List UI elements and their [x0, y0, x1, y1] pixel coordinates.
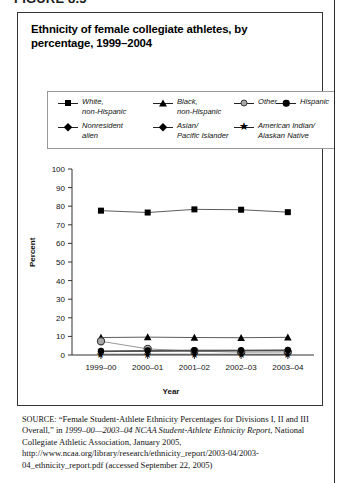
x-tick-label: 2003–04 — [272, 363, 304, 372]
star-marker-icon: ★ — [234, 122, 254, 132]
data-point-marker: ★ — [96, 349, 105, 360]
y-tick-label: 0 — [61, 351, 66, 360]
data-point-marker — [145, 210, 151, 216]
data-point-marker: ★ — [190, 349, 199, 360]
legend-label: American Indian/ Alaskan Native — [258, 121, 315, 140]
y-tick-label: 50 — [56, 258, 65, 267]
square-marker-icon — [58, 98, 78, 108]
y-tick-label: 10 — [56, 332, 65, 341]
source-italic: 1999–00—2003–04 NCAA Student-Athlete Eth… — [65, 425, 271, 435]
x-axis-title: Year — [18, 387, 324, 396]
data-point-marker — [97, 338, 104, 345]
open-circle-marker-icon — [234, 98, 254, 108]
x-tick-label: 2000–01 — [132, 363, 164, 372]
data-point-marker — [238, 207, 244, 213]
page-right-rule — [334, 0, 335, 483]
legend-label: Asian/ Pacific Islander — [177, 121, 229, 140]
legend-label: Other — [258, 97, 277, 107]
legend-label: White, non-Hispanic — [82, 97, 126, 116]
x-tick-label: 2002–03 — [226, 363, 258, 372]
data-point-marker — [191, 206, 197, 212]
figure-title: Ethnicity of female collegiate athletes,… — [31, 22, 311, 50]
legend-item-other[interactable]: Other — [234, 97, 277, 108]
chart-series — [97, 333, 291, 341]
legend-row-1: White, non-Hispanic Black, non-Hispanic … — [48, 97, 334, 123]
y-tick-label: 90 — [56, 184, 65, 193]
data-point-marker: ★ — [237, 349, 246, 360]
data-point-marker — [285, 209, 291, 215]
y-tick-label: 20 — [56, 314, 65, 323]
chart-series — [98, 206, 291, 215]
filled-circle-marker-icon — [276, 98, 296, 108]
legend-item-asian-pacific-islander[interactable]: Asian/ Pacific Islander — [153, 121, 229, 140]
line-chart-svg: 01020304050607080901001999–002000–012001… — [18, 159, 324, 384]
legend-item-white-non-hispanic[interactable]: White, non-Hispanic — [58, 97, 126, 116]
source-note: SOURCE: “Female Student-Athlete Ethnicit… — [22, 414, 322, 471]
triangle-marker-icon — [153, 98, 173, 108]
data-point-marker: ★ — [143, 349, 152, 360]
legend-label: Hispanic — [300, 97, 329, 107]
legend-row-2: Nonresident alien Asian/ Pacific Islande… — [48, 121, 334, 147]
legend-label: Nonresident alien — [82, 121, 123, 140]
y-tick-label: 30 — [56, 295, 65, 304]
legend-item-nonresident-alien[interactable]: Nonresident alien — [58, 121, 123, 140]
figure-panel: Ethnicity of female collegiate athletes,… — [17, 12, 323, 406]
y-tick-label: 40 — [56, 277, 65, 286]
y-tick-label: 60 — [56, 239, 65, 248]
data-point-marker: ★ — [283, 349, 292, 360]
chart-legend: White, non-Hispanic Black, non-Hispanic … — [47, 91, 335, 149]
y-tick-label: 70 — [56, 221, 65, 230]
source-prefix: SOURCE: — [22, 415, 57, 424]
diamond-marker-icon — [58, 122, 78, 132]
x-tick-label: 1999–00 — [85, 363, 117, 372]
legend-label: Black, non-Hispanic — [177, 97, 221, 116]
figure-label: FIGURE 8.5 — [14, 0, 87, 6]
legend-item-black-non-hispanic[interactable]: Black, non-Hispanic — [153, 97, 221, 116]
y-tick-label: 80 — [56, 202, 65, 211]
diamond-marker-icon — [153, 122, 173, 132]
legend-item-hispanic[interactable]: Hispanic — [276, 97, 329, 108]
legend-item-american-indian-alaskan-native[interactable]: ★ American Indian/ Alaskan Native — [234, 121, 315, 140]
y-tick-label: 100 — [52, 165, 66, 174]
data-point-marker — [98, 208, 104, 214]
x-tick-label: 2001–02 — [179, 363, 211, 372]
chart-plot-area: Percent Year 01020304050607080901001999–… — [18, 159, 324, 407]
